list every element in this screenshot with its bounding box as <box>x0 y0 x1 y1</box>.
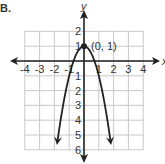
y-tick-label: 6 <box>75 144 81 156</box>
y-tick-label: 2 <box>75 85 81 97</box>
x-tick-label: 4 <box>140 63 146 75</box>
x-tick-label: -2 <box>50 63 60 75</box>
x-tick-label: 3 <box>125 63 131 75</box>
y-axis-label: y <box>80 0 88 12</box>
x-axis-label: x <box>161 55 165 67</box>
parabola-chart: xy-4-3-2-1123421123456(0, 1) <box>0 0 165 164</box>
vertex-annotation: (0, 1) <box>91 40 117 52</box>
vertex-point <box>81 43 87 49</box>
x-tick-label: -4 <box>20 63 30 75</box>
x-tick-label: 2 <box>111 63 117 75</box>
y-tick-label: 5 <box>75 129 81 141</box>
y-tick-label: 1 <box>75 70 81 82</box>
x-tick-label: -3 <box>35 63 45 75</box>
y-tick-label: 3 <box>75 99 81 111</box>
y-tick-label: 2 <box>75 25 81 37</box>
y-tick-label: 4 <box>75 114 81 126</box>
